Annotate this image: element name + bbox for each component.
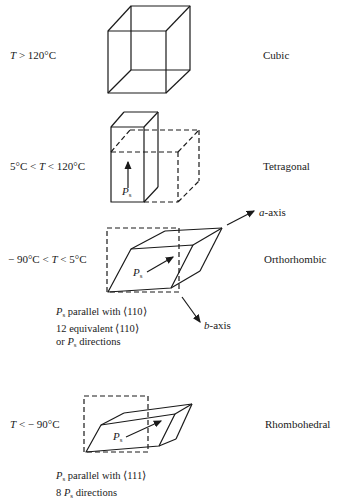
- phase-label-orthorhombic: Orthorhombic: [264, 253, 326, 266]
- note-text: directions: [73, 487, 117, 498]
- temp-upper: < 5°C: [58, 253, 87, 265]
- note-text: directions: [77, 336, 121, 347]
- polarization-label-tetragonal: Ps: [122, 185, 131, 202]
- note-line-1: Ps parallel with ⟨111⟩: [56, 469, 146, 486]
- a-axis-label: a-axis: [259, 206, 286, 219]
- note-line-3: or Ps directions: [56, 335, 147, 352]
- temp-upper: < 120°C: [45, 160, 85, 172]
- temperature-label-tetragonal: 5°C < T < 120°C: [10, 160, 85, 173]
- vector-subscript: s: [140, 272, 143, 280]
- temp-range: > 120°C: [19, 49, 56, 61]
- phase-label-cubic: Cubic: [263, 49, 289, 62]
- rhombohedral-notes: Ps parallel with ⟨111⟩ 8 Ps directions: [56, 469, 146, 502]
- phase-label-rhombohedral: Rhombohedral: [265, 418, 330, 431]
- note-text: 8: [56, 487, 64, 498]
- polarization-label-orthorhombic: Ps: [133, 266, 142, 283]
- temp-variable: T: [10, 49, 16, 61]
- vector-symbol: P: [122, 185, 129, 197]
- note-line-1: Ps parallel with ⟨110⟩: [56, 305, 147, 322]
- note-line-2: 8 Ps directions: [56, 486, 146, 502]
- temp-upper: < − 90°C: [16, 418, 59, 430]
- orthorhombic-notes: Ps parallel with ⟨110⟩ 12 equivalent ⟨11…: [56, 305, 147, 352]
- note-text: parallel with ⟨111⟩: [65, 470, 146, 481]
- note-text: parallel with ⟨110⟩: [65, 306, 146, 317]
- vector-symbol: P: [133, 266, 140, 278]
- temperature-label-cubic: T > 120°C: [10, 49, 56, 62]
- temp-lower: − 90°C <: [8, 253, 51, 265]
- note-text: or: [56, 336, 67, 347]
- polarization-label-rhombohedral: Ps: [113, 430, 122, 447]
- b-axis-label: b-axis: [204, 319, 231, 332]
- axis-suffix: -axis: [210, 319, 231, 331]
- vector-symbol: P: [113, 430, 120, 442]
- axis-suffix: -axis: [265, 206, 286, 218]
- vector-subscript: s: [129, 191, 132, 199]
- temperature-label-rhombohedral: T < − 90°C: [10, 418, 60, 431]
- temp-lower: 5°C <: [10, 160, 39, 172]
- cubic-cell-drawing: [108, 6, 190, 93]
- phase-label-tetragonal: Tetragonal: [263, 160, 310, 173]
- rhombohedral-cell-drawing: [84, 396, 192, 452]
- note-line-2: 12 equivalent ⟨110⟩: [56, 322, 147, 335]
- temperature-label-orthorhombic: − 90°C < T < 5°C: [8, 253, 86, 266]
- vector-subscript: s: [120, 436, 123, 444]
